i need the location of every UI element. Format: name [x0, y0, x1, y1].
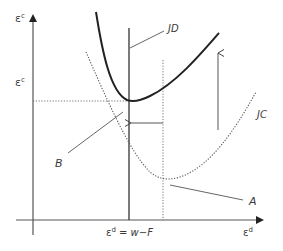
y-axis-label: εc — [15, 12, 25, 25]
point-a-label: A — [248, 195, 257, 208]
a-leader-line — [170, 185, 243, 200]
jd-label: JD — [166, 23, 179, 34]
jc-curve — [86, 52, 256, 179]
x-axis-label: εd — [243, 226, 253, 238]
jd-leader-line — [130, 31, 164, 48]
y-tick-label: εc — [15, 76, 25, 89]
point-b-label: B — [55, 157, 63, 170]
x-tick-label: εd = w−F — [106, 226, 153, 238]
jc-label: JC — [255, 109, 267, 120]
b-leader-line — [68, 112, 123, 153]
economics-diagram: εc εc JD JC B A εd = w−F εd — [0, 0, 283, 251]
jd-curve — [96, 12, 219, 101]
